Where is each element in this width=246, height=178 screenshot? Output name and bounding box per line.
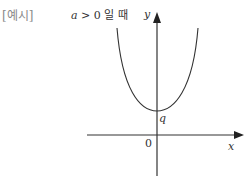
x-axis-label: x <box>228 140 234 153</box>
origin-label: 0 <box>145 137 152 150</box>
graph <box>0 0 246 178</box>
y-intercept-label: q <box>159 112 166 125</box>
y-axis-label: y <box>144 8 150 21</box>
y-axis-arrow-icon <box>153 12 161 23</box>
x-axis-arrow-icon <box>234 131 244 139</box>
